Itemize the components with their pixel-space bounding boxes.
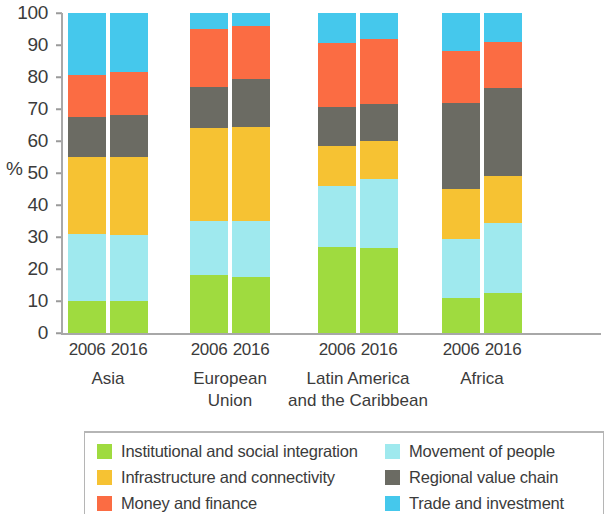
bar-segment-movement-of-people	[110, 235, 148, 301]
y-tick-label-40: 40	[27, 194, 48, 216]
y-tick-label-10: 10	[27, 290, 48, 312]
legend-label: Money and finance	[121, 494, 257, 513]
bar-segment-infrastructure-and-connectivity	[360, 141, 398, 179]
bar-segment-institutional-and-social-integration	[232, 277, 270, 333]
bar-segment-regional-value-chain	[190, 87, 228, 129]
bar-segment-institutional-and-social-integration	[68, 301, 106, 333]
legend-swatch-icon	[97, 470, 112, 485]
bar-segment-movement-of-people	[318, 186, 356, 247]
y-tick-label-60: 60	[27, 130, 48, 152]
bar-asia-2006[interactable]	[68, 13, 106, 333]
bar-segment-trade-and-investment	[484, 13, 522, 42]
bar-segment-institutional-and-social-integration	[484, 293, 522, 333]
legend-column-left: Institutional and social integrationInfr…	[97, 439, 358, 515]
bar-segment-infrastructure-and-connectivity	[232, 127, 270, 221]
bar-segment-infrastructure-and-connectivity	[68, 157, 106, 234]
bar-segment-money-and-finance	[360, 39, 398, 105]
bar-asia-2016[interactable]	[110, 13, 148, 333]
bar-segment-money-and-finance	[68, 75, 106, 117]
legend-label: Regional value chain	[409, 468, 558, 487]
legend-label: Infrastructure and connectivity	[121, 468, 335, 487]
bar-segment-movement-of-people	[190, 221, 228, 275]
bar-segment-institutional-and-social-integration	[190, 275, 228, 333]
bar-european-union-2016[interactable]	[232, 13, 270, 333]
bar-segment-money-and-finance	[484, 42, 522, 88]
legend-item[interactable]: Institutional and social integration	[97, 439, 358, 464]
bar-segment-trade-and-investment	[232, 13, 270, 26]
bar-segment-trade-and-investment	[442, 13, 480, 51]
y-tick-label-20: 20	[27, 258, 48, 280]
group-label-line: and the Caribbean	[253, 390, 463, 412]
y-tick-label-70: 70	[27, 98, 48, 120]
legend-label: Institutional and social integration	[121, 442, 358, 461]
bar-segment-trade-and-investment	[190, 13, 228, 29]
bar-africa-2016[interactable]	[484, 13, 522, 333]
bar-segment-infrastructure-and-connectivity	[442, 189, 480, 239]
legend-label: Trade and investment	[409, 494, 564, 513]
legend-item[interactable]: Regional value chain	[385, 465, 564, 490]
bar-segment-trade-and-investment	[318, 13, 356, 43]
bar-segment-movement-of-people	[232, 221, 270, 277]
bar-segment-trade-and-investment	[360, 13, 398, 39]
bar-segment-money-and-finance	[232, 26, 270, 79]
bar-segment-money-and-finance	[190, 29, 228, 87]
legend-column-right: Movement of peopleRegional value chainTr…	[385, 439, 564, 515]
legend-item[interactable]: Trade and investment	[385, 491, 564, 515]
bar-segment-institutional-and-social-integration	[110, 301, 148, 333]
y-tick-label-90: 90	[27, 34, 48, 56]
bar-segment-infrastructure-and-connectivity	[110, 157, 148, 235]
bar-segment-money-and-finance	[110, 72, 148, 115]
bar-segment-movement-of-people	[442, 239, 480, 298]
bar-segment-movement-of-people	[484, 223, 522, 293]
y-axis-ticks: 0102030405060708090100	[0, 0, 62, 345]
x-tick-label-year: 2016	[473, 340, 533, 360]
bar-european-union-2006[interactable]	[190, 13, 228, 333]
group-label-line: Africa	[377, 368, 587, 390]
y-tick-label-80: 80	[27, 66, 48, 88]
bar-segment-regional-value-chain	[110, 115, 148, 157]
bar-segment-money-and-finance	[442, 51, 480, 102]
bar-segment-movement-of-people	[68, 234, 106, 301]
bar-segment-regional-value-chain	[360, 104, 398, 141]
bar-segment-institutional-and-social-integration	[360, 248, 398, 333]
bar-segment-institutional-and-social-integration	[318, 247, 356, 333]
bar-segment-regional-value-chain	[68, 117, 106, 157]
bar-segment-infrastructure-and-connectivity	[190, 128, 228, 221]
bar-segment-infrastructure-and-connectivity	[484, 176, 522, 222]
bar-latin-america-and-the-caribbean-2006[interactable]	[318, 13, 356, 333]
legend-item[interactable]: Money and finance	[97, 491, 358, 515]
bar-segment-trade-and-investment	[68, 13, 106, 75]
bar-segment-regional-value-chain	[442, 103, 480, 189]
legend-item[interactable]: Infrastructure and connectivity	[97, 465, 358, 490]
bar-segment-money-and-finance	[318, 43, 356, 107]
bar-segment-regional-value-chain	[484, 88, 522, 176]
stacked-bar-chart: % 0102030405060708090100 Institutional a…	[0, 0, 613, 515]
bar-segment-infrastructure-and-connectivity	[318, 146, 356, 186]
bar-segment-regional-value-chain	[232, 79, 270, 127]
x-axis-group-label: Africa	[377, 368, 587, 390]
legend-label: Movement of people	[409, 442, 555, 461]
bar-segment-institutional-and-social-integration	[442, 298, 480, 333]
bar-segment-movement-of-people	[360, 179, 398, 248]
x-tick-label-year: 2016	[99, 340, 159, 360]
legend-swatch-icon	[385, 470, 400, 485]
legend-swatch-icon	[385, 444, 400, 459]
x-tick-label-year: 2016	[221, 340, 281, 360]
legend-swatch-icon	[97, 444, 112, 459]
x-tick-label-year: 2016	[349, 340, 409, 360]
chart-legend: Institutional and social integrationInfr…	[84, 432, 604, 514]
bar-africa-2006[interactable]	[442, 13, 480, 333]
bar-segment-trade-and-investment	[110, 13, 148, 72]
y-tick-label-30: 30	[27, 226, 48, 248]
plot-area	[62, 13, 602, 333]
bar-latin-america-and-the-caribbean-2016[interactable]	[360, 13, 398, 333]
legend-swatch-icon	[97, 496, 112, 511]
legend-swatch-icon	[385, 496, 400, 511]
y-tick-label-100: 100	[17, 2, 48, 24]
bar-segment-regional-value-chain	[318, 107, 356, 145]
y-tick-label-50: 50	[27, 162, 48, 184]
x-axis-line	[61, 333, 601, 335]
y-tick-label-0: 0	[38, 322, 48, 344]
legend-item[interactable]: Movement of people	[385, 439, 564, 464]
